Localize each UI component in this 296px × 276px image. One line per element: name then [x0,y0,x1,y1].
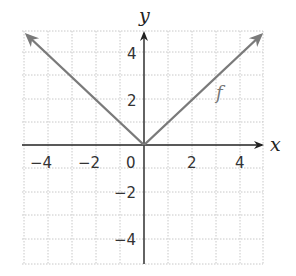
y-tick-label: −2 [114,184,136,202]
x-tick-label: −4 [30,154,52,172]
chart: y x f −4 −2 0 2 4 4 2 −2 −4 [0,0,296,276]
y-tick-label: −4 [114,231,136,249]
curve-label: f [214,82,226,103]
x-axis-label: x [270,133,281,155]
x-tick-label: 2 [187,154,197,172]
y-axis-label: y [138,4,150,26]
x-tick-label: 0 [126,154,136,172]
y-tick-label: 2 [127,92,137,110]
y-tick-label: 4 [127,45,137,63]
x-tick-label: 4 [235,154,245,172]
x-tick-label: −2 [78,154,100,172]
